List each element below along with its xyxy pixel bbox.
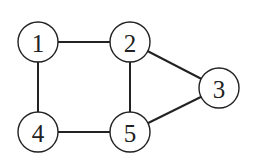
- node-1: 1: [18, 22, 58, 62]
- node-label: 4: [32, 120, 45, 147]
- node-label: 2: [124, 30, 137, 57]
- node-label: 5: [124, 120, 137, 147]
- node-4: 4: [18, 112, 58, 152]
- graph-diagram: 12345: [0, 0, 259, 168]
- node-3: 3: [199, 68, 239, 108]
- node-2: 2: [110, 22, 150, 62]
- nodes: 12345: [18, 22, 239, 152]
- node-5: 5: [110, 112, 150, 152]
- node-label: 1: [32, 30, 45, 57]
- node-label: 3: [213, 76, 226, 103]
